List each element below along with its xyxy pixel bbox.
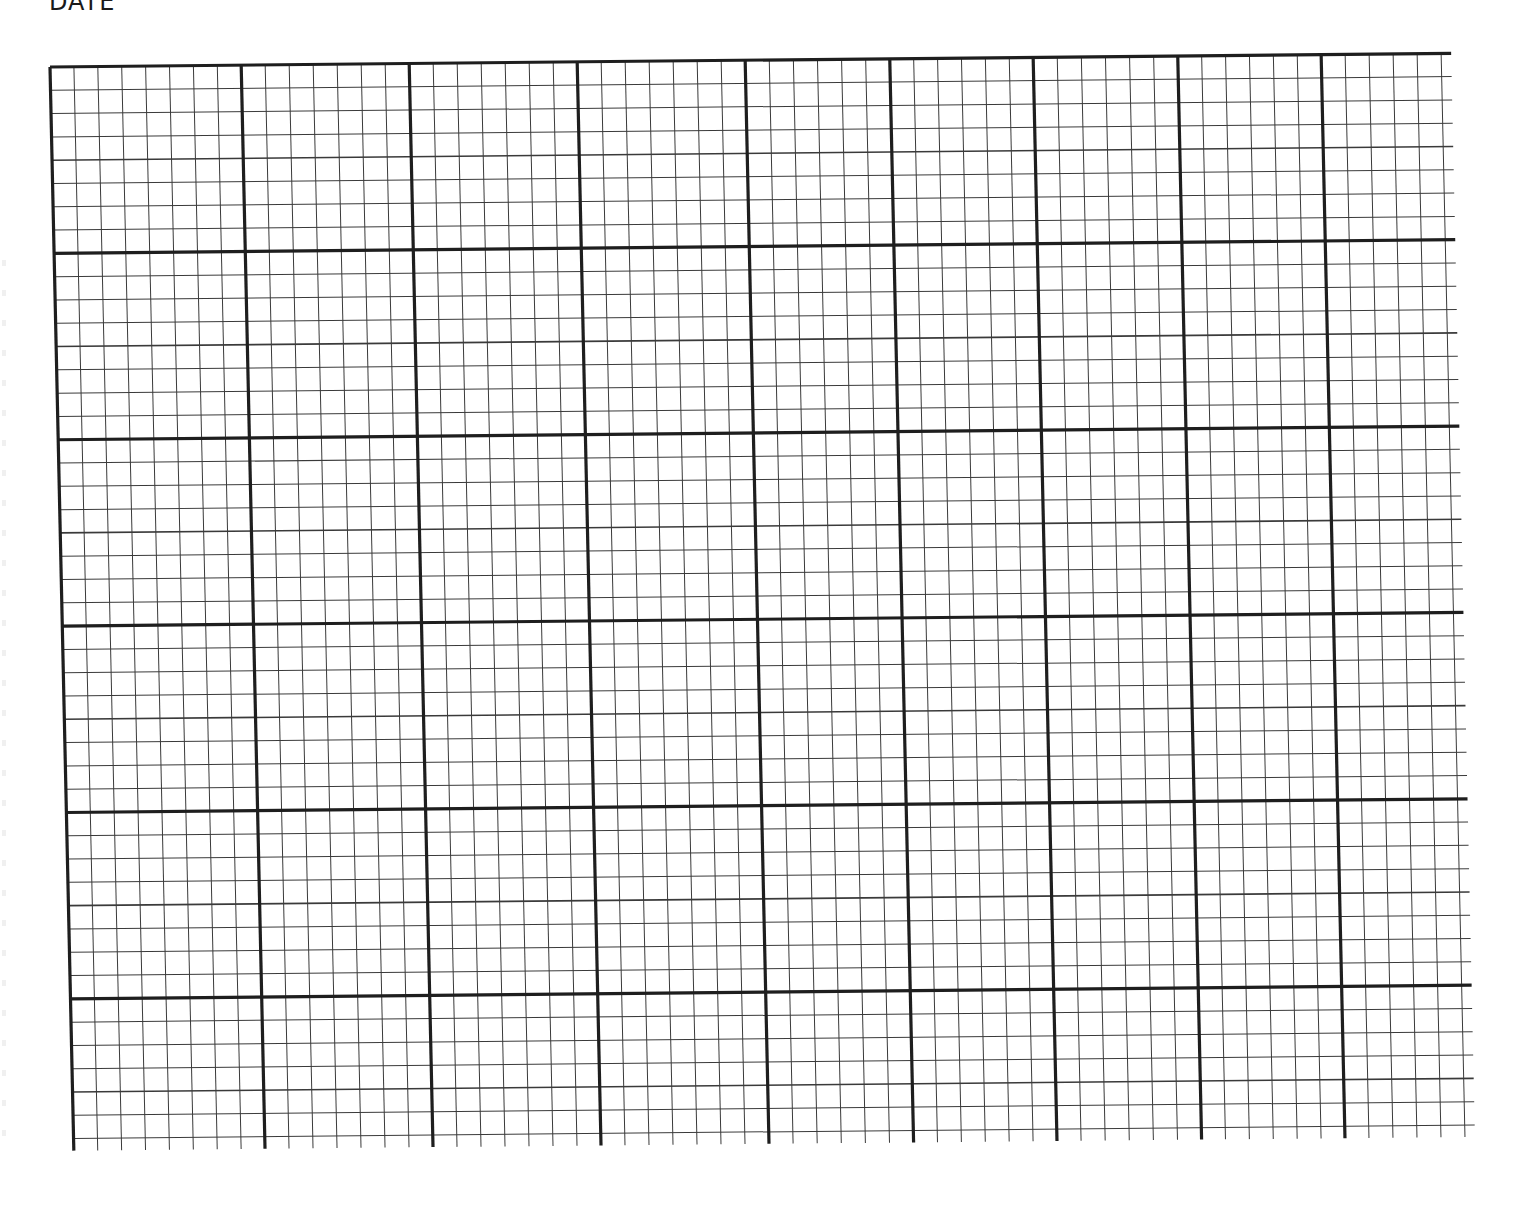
minor-horizontal-line [67, 845, 1468, 859]
minor-horizontal-line [51, 77, 1452, 91]
minor-horizontal-line [57, 379, 1458, 393]
major-horizontal-line [70, 985, 1471, 999]
minor-horizontal-line [57, 356, 1458, 370]
minor-horizontal-line [73, 1102, 1474, 1116]
minor-horizontal-line [54, 216, 1455, 230]
major-horizontal-line [66, 799, 1467, 813]
minor-horizontal-line [52, 146, 1453, 160]
minor-horizontal-line [56, 333, 1457, 347]
minor-horizontal-line [56, 310, 1457, 324]
grid-lines [50, 53, 1495, 1187]
minor-horizontal-line [65, 752, 1466, 766]
minor-horizontal-line [68, 892, 1469, 906]
minor-horizontal-line [70, 962, 1471, 976]
major-horizontal-line [50, 53, 1451, 67]
graph-paper-page: DATE [0, 0, 1518, 1216]
minor-horizontal-line [63, 636, 1464, 650]
minor-horizontal-line [53, 193, 1454, 207]
minor-horizontal-line [58, 403, 1459, 417]
major-horizontal-line [62, 612, 1463, 626]
minor-horizontal-line [51, 100, 1452, 114]
minor-horizontal-line [74, 1125, 1475, 1139]
minor-horizontal-line [65, 729, 1466, 743]
minor-horizontal-line [52, 123, 1453, 137]
minor-horizontal-line [72, 1032, 1473, 1046]
binding-marks [2, 260, 6, 1160]
minor-horizontal-line [67, 822, 1468, 836]
date-label: DATE [49, 0, 115, 16]
minor-horizontal-line [71, 1008, 1472, 1022]
minor-horizontal-line [55, 263, 1456, 277]
minor-horizontal-line [59, 449, 1460, 463]
minor-horizontal-line [59, 473, 1460, 487]
minor-horizontal-line [60, 519, 1461, 533]
minor-horizontal-line [72, 1055, 1473, 1069]
major-horizontal-line [54, 240, 1455, 254]
minor-horizontal-line [66, 775, 1467, 789]
graph-grid [50, 53, 1495, 1187]
minor-horizontal-line [63, 659, 1464, 673]
minor-horizontal-line [61, 566, 1462, 580]
minor-horizontal-line [53, 170, 1454, 184]
minor-horizontal-line [69, 939, 1470, 953]
minor-horizontal-line [73, 1078, 1474, 1092]
minor-horizontal-line [68, 869, 1469, 883]
minor-horizontal-line [64, 706, 1465, 720]
minor-horizontal-line [60, 496, 1461, 510]
minor-horizontal-line [69, 915, 1470, 929]
minor-horizontal-line [61, 543, 1462, 557]
minor-horizontal-line [55, 286, 1456, 300]
minor-horizontal-line [64, 682, 1465, 696]
minor-horizontal-line [62, 589, 1463, 603]
major-horizontal-line [58, 426, 1459, 440]
